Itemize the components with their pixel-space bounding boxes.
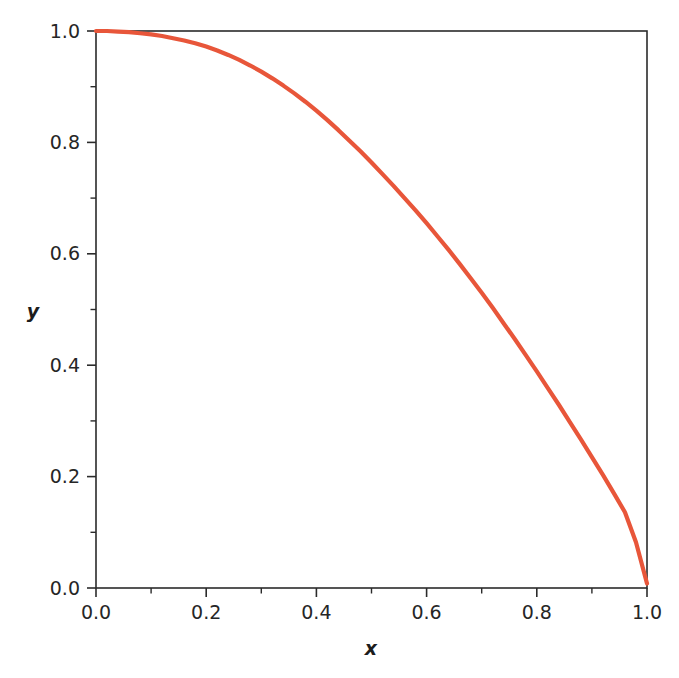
- y-tick-label-0: 0.0: [50, 577, 80, 599]
- x-tick-label-4: 0.8: [522, 601, 552, 623]
- x-tick-label-3: 0.6: [411, 601, 441, 623]
- x-tick-label-1: 0.2: [191, 601, 221, 623]
- y-axis-title: y: [27, 300, 41, 322]
- y-tick-label-2: 0.4: [50, 354, 80, 376]
- y-tick-label-5: 1.0: [50, 20, 80, 42]
- y-tick-label-3: 0.6: [50, 242, 80, 264]
- x-tick-label-5: 1.0: [632, 601, 662, 623]
- chart-figure: 0.00.20.40.60.81.0 0.00.20.40.60.81.0 x …: [0, 0, 679, 678]
- line-chart-canvas: 0.00.20.40.60.81.0 0.00.20.40.60.81.0 x …: [0, 0, 679, 678]
- x-axis-title: x: [364, 637, 378, 659]
- x-tick-label-2: 0.4: [301, 601, 331, 623]
- x-tick-label-0: 0.0: [81, 601, 111, 623]
- chart-background: [0, 0, 679, 678]
- y-tick-label-4: 0.8: [50, 131, 80, 153]
- y-tick-label-1: 0.2: [50, 465, 80, 487]
